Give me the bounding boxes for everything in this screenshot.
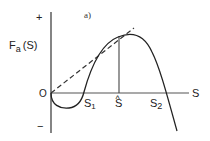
s-hat-label: S [115,97,122,109]
fa-curve [51,34,177,131]
y-plus-label: + [36,11,42,23]
origin-label: O [39,88,47,99]
x-axis-label: S [192,87,199,99]
panel-label: a) [84,10,91,20]
s1-label: S1 [84,97,96,111]
y-minus-label: − [37,120,43,132]
s2-label: S2 [150,97,162,111]
tangent-line [51,28,134,93]
y-axis-label: Fa(S) [9,39,37,54]
diagram: + − Fa(S) a) O S S1 ^ S S2 [0,0,210,141]
